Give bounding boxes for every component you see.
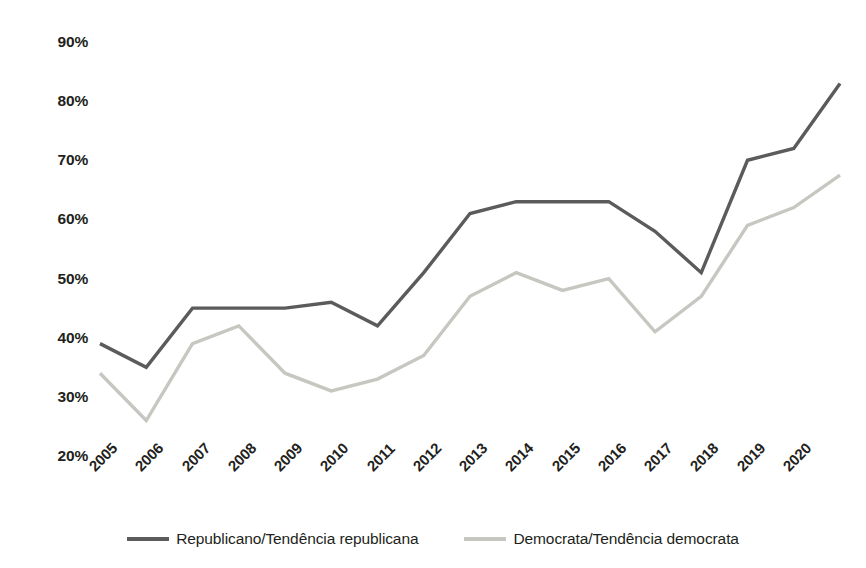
y-axis-tick-label: 70% <box>30 153 88 169</box>
legend-item-2[interactable]: Democrata/Tendência democrata <box>464 530 738 548</box>
y-axis-tick-label: 60% <box>30 212 88 228</box>
x-axis: 2005200620072008200920102011201220132014… <box>0 455 866 525</box>
y-axis-tick-label: 30% <box>30 389 88 405</box>
legend-label: Democrata/Tendência democrata <box>513 530 738 548</box>
series-line-1 <box>100 83 840 367</box>
y-axis-tick-label: 40% <box>30 330 88 346</box>
legend-label: Republicano/Tendência republicana <box>176 530 418 548</box>
legend-item-1[interactable]: Republicano/Tendência republicana <box>127 530 418 548</box>
y-axis-tick-label: 50% <box>30 271 88 287</box>
line-chart: 90%80%70%60%50%40%30%20% 200520062007200… <box>0 0 866 568</box>
y-axis-tick-label: 80% <box>30 93 88 109</box>
y-axis-tick-label: 90% <box>30 34 88 50</box>
plot-svg <box>88 0 866 470</box>
chart-legend: Republicano/Tendência republicanaDemocra… <box>0 524 866 554</box>
legend-line-swatch <box>464 537 506 541</box>
plot-area <box>88 0 866 470</box>
legend-line-swatch <box>127 537 169 541</box>
